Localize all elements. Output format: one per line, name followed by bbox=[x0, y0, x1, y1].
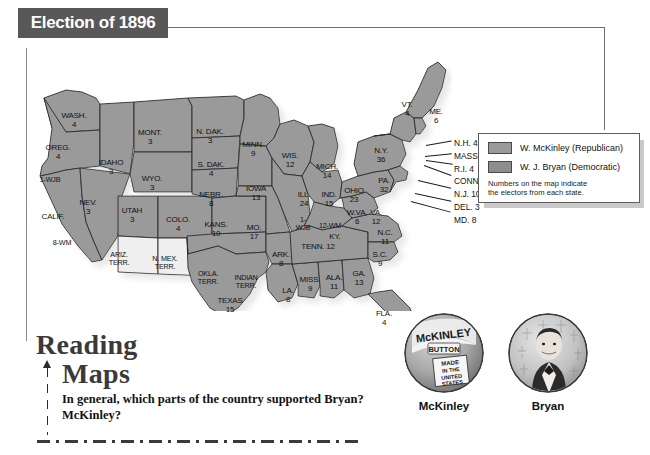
state-label-indian-terr: INDIAN TERR. bbox=[226, 274, 266, 290]
state-label-georgia: GA. 13 bbox=[339, 270, 379, 287]
right-rule bbox=[604, 27, 605, 130]
state-label-michigan: MICH. 14 bbox=[307, 163, 347, 180]
state-label-arkansas: ARK. 8 bbox=[261, 251, 301, 268]
state-label-montana: MONT. 3 bbox=[130, 129, 170, 146]
title-banner: Election of 1896 bbox=[18, 8, 168, 38]
state-label-oklahoma-terr: OKLA. TERR. bbox=[188, 270, 228, 286]
reading-maps-dashed-vline bbox=[47, 368, 48, 435]
state-label-oregon: OREG. 4 bbox=[38, 144, 78, 161]
state-label-kentucky: KY. bbox=[315, 233, 355, 242]
state-label-california: CALIF. bbox=[33, 213, 73, 222]
state-label-idaho: IDAHO 3 bbox=[91, 159, 131, 176]
state-label-south-carolina: S.C. 9 bbox=[360, 251, 400, 268]
state-label-arizona-terr: ARIZ. TERR. bbox=[99, 251, 139, 267]
legend-label-democratic: W. J. Bryan (Democratic) bbox=[520, 160, 620, 174]
mckinley-button-caption: McKinley bbox=[404, 400, 484, 412]
bryan-button bbox=[508, 313, 588, 393]
us-election-map: WASH. 4OREG. 41-WJBCALIF.8-WMIDAHO 3NEV.… bbox=[22, 46, 452, 311]
state-label-pennsylvania: PA. 32 bbox=[364, 177, 404, 194]
democratic-swatch bbox=[488, 161, 512, 173]
state-label-colorado: COLO. 4 bbox=[158, 216, 198, 233]
reading-maps-heading-line1: Reading bbox=[36, 329, 138, 361]
top-rule bbox=[162, 27, 605, 28]
bryan-button-caption: Bryan bbox=[508, 400, 588, 412]
state-label-kansas: KANS. 10 bbox=[196, 221, 236, 238]
callout-new-hampshire: N.H. 4 bbox=[454, 138, 478, 148]
state-label-washington: WASH. 4 bbox=[54, 112, 94, 129]
state-label-nebraska: NEBR. 8 bbox=[191, 191, 231, 208]
callout-delaware: DEL. 3 bbox=[454, 202, 480, 212]
mckinley-button: McKINLEY BUTTON MADE IN THE UNITED STATE… bbox=[404, 313, 484, 393]
reading-maps-question: In general, which parts of the country s… bbox=[62, 392, 392, 423]
svg-text:BUTTON: BUTTON bbox=[428, 345, 459, 354]
state-label-california-8: 8-WM bbox=[42, 239, 82, 247]
state-label-minnesota: MINN. 9 bbox=[233, 141, 273, 158]
state-label-south-dakota: S. DAK. 4 bbox=[191, 161, 231, 178]
legend-label-republican: W. McKinley (Republican) bbox=[520, 141, 623, 155]
state-label-iowa: IOWA 13 bbox=[236, 185, 276, 202]
state-label-new-york: N.Y. 36 bbox=[361, 147, 401, 164]
state-label-utah: UTAH 3 bbox=[112, 207, 152, 224]
state-label-new-mexico-terr: N. MEX. TERR. bbox=[145, 255, 185, 271]
legend-note: Numbers on the map indicate the electors… bbox=[488, 179, 587, 198]
bryan-button-art bbox=[508, 313, 588, 393]
callout-new-jersey: N.J. 10 bbox=[454, 189, 481, 199]
bottom-dash-rule bbox=[37, 440, 362, 443]
state-label-wyoming: WYO. 3 bbox=[132, 175, 172, 192]
state-label-north-carolina: N.C. 11 bbox=[365, 229, 405, 246]
map-legend: W. McKinley (Republican) W. J. Bryan (De… bbox=[478, 133, 640, 203]
state-label-florida: FLA. 4 bbox=[364, 310, 404, 327]
reading-maps-heading-line2: Maps bbox=[62, 358, 130, 390]
state-label-wisconsin: WIS. 12 bbox=[270, 152, 310, 169]
state-label-tennessee: TENN. 12 bbox=[298, 243, 338, 252]
callout-rhode-island: R.I. 4 bbox=[454, 164, 474, 174]
state-label-california-1: 1-WJB bbox=[30, 176, 70, 184]
election-map-page: Election of 1896 bbox=[0, 0, 650, 455]
state-label-maine: ME. 6 bbox=[416, 108, 456, 125]
callout-maryland: MD. 8 bbox=[454, 215, 476, 225]
state-label-nevada: NEV. 3 bbox=[68, 199, 108, 216]
republican-swatch bbox=[488, 142, 512, 154]
mckinley-button-art: McKINLEY BUTTON MADE IN THE UNITED STATE… bbox=[404, 313, 484, 393]
state-label-texas: TEXAS 15 bbox=[210, 297, 250, 314]
state-label-west-virginia: W.VA. 6 bbox=[337, 209, 377, 226]
state-label-north-dakota: N. DAK. 3 bbox=[190, 128, 230, 145]
up-arrow-icon bbox=[43, 360, 51, 368]
page-title: Election of 1896 bbox=[18, 8, 168, 38]
state-label-missouri: MO. 17 bbox=[234, 224, 274, 241]
